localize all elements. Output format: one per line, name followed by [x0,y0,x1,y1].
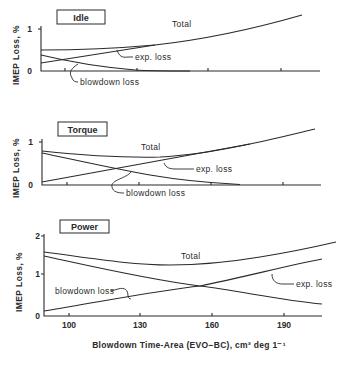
y-tick-label: 1 [28,137,33,147]
exp-loss-curve [44,259,322,311]
y-tick-label: 0 [27,66,32,76]
x-tick-label: 160 [205,320,219,330]
y-tick-label: 0 [28,180,33,190]
axes [41,234,322,316]
y-tick-label: 1 [27,24,32,34]
exp-loss-label: exp. loss [196,164,232,174]
blowdown-loss-label: blowdown loss [80,77,139,87]
x-axis-label: Blowdown Time-Area (EVO−BC), cm² deg 1⁻¹ [92,340,286,350]
x-tick-label: 130 [133,320,147,330]
imep-loss-chart: Idle IMEP Loss, % 1 0 Total exp. loss bl… [0,0,346,371]
x-tick-label: 190 [277,320,291,330]
panel-title: Power [71,222,99,232]
y-tick-label: 2 [35,231,40,241]
exp-loss-label: exp. loss [135,52,171,62]
total-label: Total [181,251,200,261]
total-label: Total [172,19,191,29]
blowdown-loss-label: blowdown loss [126,188,185,198]
blowdown-loss-leader [70,64,78,82]
x-tick-label: 100 [62,320,76,330]
y-tick-label: 1 [35,269,40,279]
panel-title: Torque [68,125,98,135]
exp-loss-leader [164,163,194,169]
total-label: Total [141,142,160,152]
panel-power: Power IMEP Loss, % 2 1 0 Total exp. loss… [14,220,336,350]
panel-title: Idle [73,13,89,23]
y-axis-label: IMEP Loss, % [14,252,24,312]
panel-idle: Idle IMEP Loss, % 1 0 Total exp. loss bl… [11,10,320,87]
panel-torque: Torque IMEP Loss, % 1 0 Total exp. loss … [11,122,321,198]
axes [38,26,320,71]
axes [39,139,321,185]
y-tick-label: 0 [35,311,40,321]
exp-loss-leader [272,274,294,284]
blowdown-loss-curve [44,256,322,304]
exp-loss-label: exp. loss [296,279,332,289]
y-axis-label: IMEP Loss, % [11,138,21,198]
blowdown-loss-label: blowdown loss [55,286,114,296]
y-axis-label: IMEP Loss, % [11,25,21,85]
